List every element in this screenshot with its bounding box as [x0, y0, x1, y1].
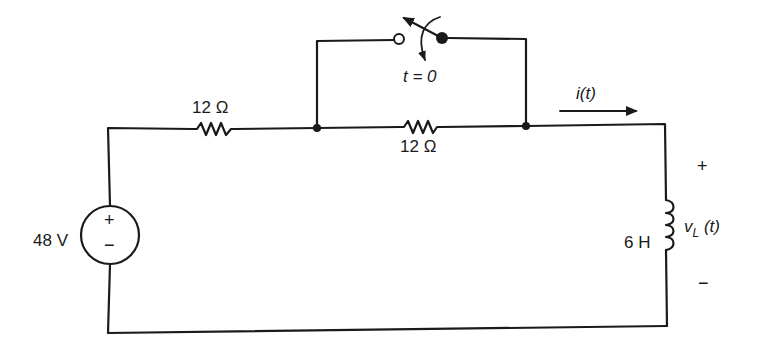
resistor-bypassed-label: 12 Ω: [400, 137, 436, 156]
wire-bottom: [108, 264, 667, 333]
switch: [394, 17, 448, 60]
switch-open-contact: [394, 34, 404, 44]
resistor-series-label: 12 Ω: [192, 98, 228, 117]
source-label: 48 V: [33, 231, 69, 250]
wire-right-top: [526, 124, 666, 200]
circuit-diagram: 12 Ω 12 Ω t = 0 i(t) 6 H + vL (t) −: [0, 0, 763, 350]
resistor-bypassed: [400, 121, 441, 133]
vl-plus-sign: +: [697, 156, 708, 176]
source-plus-sign: +: [104, 210, 115, 230]
wire-to-left-junction: [235, 128, 317, 129]
wire-middle-branch-right: [441, 126, 526, 127]
vl-minus-sign: −: [698, 273, 709, 293]
source-minus-sign: −: [104, 235, 115, 255]
resistor-series: [193, 123, 235, 135]
vl-label: vL (t): [684, 217, 720, 240]
inductor-label: 6 H: [624, 233, 650, 252]
current-label: i(t): [576, 84, 596, 103]
wire-left-top: [108, 128, 193, 206]
voltage-source: + −: [81, 206, 139, 264]
switch-arm-icon: [404, 18, 442, 38]
wire-middle-branch: [317, 127, 400, 128]
switch-label: t = 0: [403, 67, 437, 86]
inductor: [666, 200, 674, 326]
